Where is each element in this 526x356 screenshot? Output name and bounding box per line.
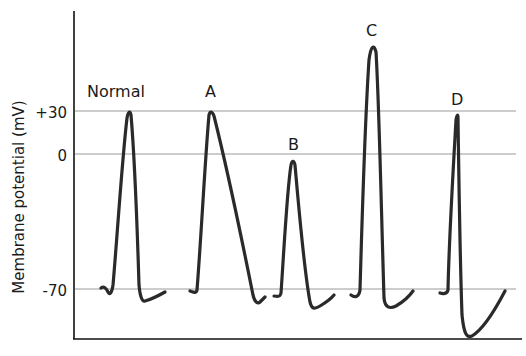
- trace-d: [440, 115, 505, 336]
- trace-a: [190, 112, 265, 303]
- label-d: D: [451, 90, 463, 109]
- label-normal: Normal: [87, 82, 145, 101]
- y-tick-minus70: -70: [43, 282, 68, 300]
- trace-normal: [101, 112, 165, 301]
- label-c: C: [366, 21, 377, 40]
- y-axis-label: Membrane potential (mV): [10, 100, 28, 293]
- action-potential-chart: +30 0 -70 Membrane potential (mV) Normal…: [0, 0, 526, 356]
- trace-b: [274, 161, 334, 308]
- label-b: B: [288, 135, 299, 154]
- y-tick-plus30: +30: [35, 104, 67, 122]
- trace-c: [351, 47, 413, 307]
- y-tick-0: 0: [57, 147, 67, 165]
- label-a: A: [205, 82, 216, 101]
